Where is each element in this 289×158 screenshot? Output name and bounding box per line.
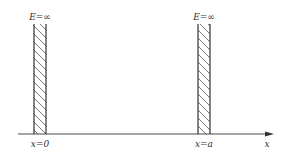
left-wall-position-label: x=0 xyxy=(31,139,50,149)
left-wall xyxy=(34,24,46,134)
potential-well-diagram: E=∞ E=∞ x=0 x=a x xyxy=(0,0,289,158)
left-wall-energy-label: E=∞ xyxy=(28,12,51,22)
right-wall xyxy=(198,24,210,134)
x-axis xyxy=(18,132,274,137)
arrow-right-icon xyxy=(265,132,274,137)
right-wall-position-label: x=a xyxy=(195,139,213,149)
x-axis-label: x xyxy=(264,139,269,149)
right-wall-energy-label: E=∞ xyxy=(192,12,215,22)
